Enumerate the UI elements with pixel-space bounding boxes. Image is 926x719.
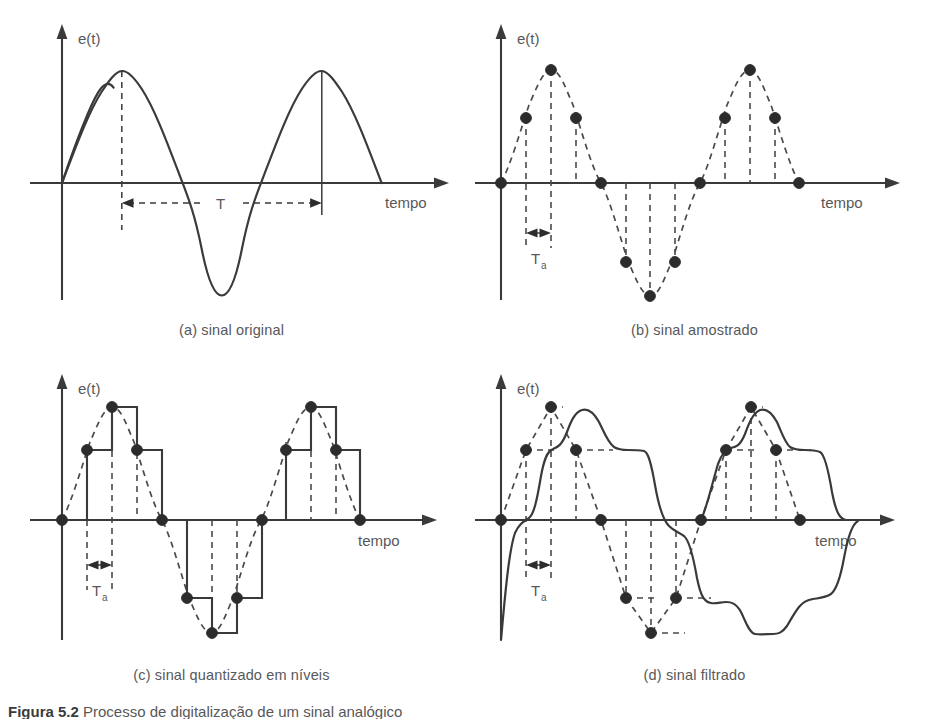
sampling-period-label: T [92, 582, 101, 599]
panel-b-caption: (b) sinal amostrado [463, 322, 926, 338]
panel-a-caption: (a) sinal original [0, 322, 463, 338]
x-axis-label: tempo [821, 194, 863, 211]
panel-c-plot: e(t) tempo [0, 350, 463, 675]
sample-dot [107, 402, 118, 413]
sampling-period-label: T [531, 250, 540, 267]
sample-dot [496, 515, 507, 526]
sample-dot [82, 445, 93, 456]
sample-dot [157, 515, 168, 526]
sample-dot [306, 402, 317, 413]
sample-dot [646, 628, 657, 639]
sample-dot [795, 515, 806, 526]
sample-dot [182, 593, 193, 604]
x-axis-label: tempo [385, 194, 427, 211]
x-axis [30, 178, 449, 189]
sample-dot [696, 515, 707, 526]
sample-dot [281, 445, 292, 456]
sample-dot [621, 257, 632, 268]
panel-a-plot: e(t) tempo T [0, 0, 463, 330]
panel-c-caption: (c) sinal quantizado em níveis [0, 667, 463, 683]
y-axis [57, 24, 68, 300]
sample-dot [621, 593, 632, 604]
y-axis [57, 374, 68, 640]
sampling-period-dimension-Ta: T a [526, 228, 551, 271]
sample-dot [521, 113, 532, 124]
panel-d-sinal-filtrado: e(t) tempo [463, 350, 926, 700]
sample-dot [496, 178, 507, 189]
sample-dot [571, 445, 582, 456]
sampling-period-label: T [531, 582, 540, 599]
sampling-period-subscript: a [541, 260, 547, 271]
figure-number: Figura 5.2 [8, 703, 79, 719]
sample-dot [695, 178, 706, 189]
sample-dot [521, 445, 532, 456]
sample-dot [355, 515, 366, 526]
panel-c-sinal-quantizado: e(t) tempo [0, 350, 463, 700]
panel-d-caption: (d) sinal filtrado [463, 667, 926, 683]
sample-dot [670, 257, 681, 268]
y-axis-label: e(t) [78, 380, 101, 397]
x-axis [475, 515, 895, 526]
sample-dot [571, 113, 582, 124]
filtered-signal-curve [501, 410, 858, 640]
y-axis-label: e(t) [78, 30, 101, 47]
sample-dot [745, 65, 756, 76]
sample-dot [746, 402, 757, 413]
sample-dot [331, 445, 342, 456]
sample-dot [132, 445, 143, 456]
period-dimension-T: T [122, 195, 322, 212]
sampling-period-subscript: a [541, 592, 547, 603]
sample-dot [546, 65, 557, 76]
sample-dot [794, 178, 805, 189]
sample-dot [770, 113, 781, 124]
y-axis-label: e(t) [517, 380, 540, 397]
sample-dot [257, 515, 268, 526]
figure-caption: Figura 5.2 Processo de digitalização de … [8, 703, 402, 719]
panel-d-plot: e(t) tempo [463, 350, 926, 675]
sample-dot [721, 445, 732, 456]
y-axis-label: e(t) [517, 30, 540, 47]
sample-dot [645, 291, 656, 302]
sample-dot [232, 593, 243, 604]
figure-root: e(t) tempo T (a) sinal original [0, 0, 926, 719]
panel-a-sinal-original: e(t) tempo T (a) sinal original [0, 0, 463, 350]
sample-dot [771, 445, 782, 456]
sample-dot [596, 178, 607, 189]
sample-dot [57, 515, 68, 526]
sample-dot [207, 628, 218, 639]
sampling-period-subscript: a [102, 592, 108, 603]
panel-b-plot: e(t) tempo [463, 0, 926, 330]
period-label-T: T [216, 195, 225, 212]
x-axis [475, 178, 900, 189]
sampling-period-dimension-Ta: T a [87, 560, 112, 603]
x-axis-label: tempo [358, 532, 400, 549]
sample-dot [546, 402, 557, 413]
sampling-period-dimension-Ta: T a [526, 560, 551, 603]
y-axis [496, 24, 507, 300]
original-sine-wave [0, 0, 114, 183]
figure-caption-text: Processo de digitalização de um sinal an… [83, 703, 402, 719]
sample-dot [596, 515, 607, 526]
panel-b-sinal-amostrado: e(t) tempo [463, 0, 926, 350]
sample-dot [720, 113, 731, 124]
sample-dot [671, 593, 682, 604]
